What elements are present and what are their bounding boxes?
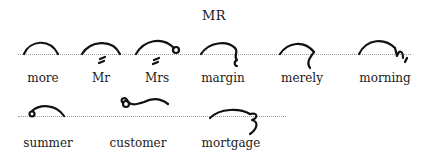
shorthand-merely-icon — [276, 36, 326, 72]
page-title: MR — [0, 8, 428, 23]
shorthand-morning-icon — [355, 34, 415, 68]
word-label-margin: margin — [183, 71, 263, 85]
word-label-summer: summer — [8, 136, 88, 150]
word-label-customer: customer — [98, 136, 178, 150]
word-label-merely: merely — [262, 71, 342, 85]
shorthand-mrs-icon — [132, 34, 188, 70]
shorthand-customer-icon — [116, 92, 176, 114]
shorthand-more-icon — [20, 36, 70, 60]
shorthand-margin-icon — [197, 36, 247, 70]
word-label-morning: morning — [345, 71, 425, 85]
shorthand-mr-icon — [78, 36, 128, 70]
word-label-mortgage: mortgage — [191, 136, 271, 150]
shorthand-summer-icon — [24, 100, 74, 122]
